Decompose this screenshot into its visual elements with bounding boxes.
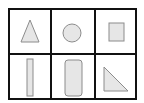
shape-grid-svg <box>8 8 137 100</box>
triangle-shape <box>21 20 39 42</box>
right-triangle-shape <box>104 67 128 91</box>
square-shape <box>109 23 124 41</box>
circle-shape <box>63 24 81 42</box>
shape-grid <box>8 8 137 100</box>
rounded-rectangle-shape <box>65 60 82 96</box>
thin-rectangle-shape <box>27 59 33 96</box>
